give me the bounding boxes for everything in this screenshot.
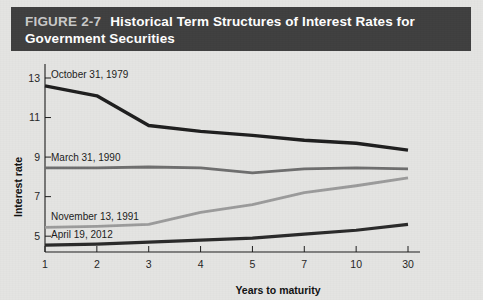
x-tick-label: 30 — [402, 258, 414, 270]
figure-title-text-1: Historical Term Structures of Interest R… — [110, 14, 415, 29]
y-tick-label: 5 — [34, 230, 40, 242]
x-axis-title: Years to maturity — [235, 284, 320, 296]
series-label-4: April 19, 2012 — [51, 229, 113, 240]
x-tick-label: 3 — [146, 258, 152, 270]
series-line-1 — [45, 86, 408, 150]
x-tick-label: 10 — [350, 258, 362, 270]
y-tick-label: 11 — [29, 111, 40, 123]
x-tick-label: 5 — [250, 258, 256, 270]
line-chart: 5791113 1234571030 Interest rate Years t… — [0, 52, 483, 300]
y-tick-label: 13 — [28, 72, 40, 84]
x-tick-label: 4 — [198, 258, 204, 270]
chart-figure: 5791113 1234571030 Interest rate Years t… — [0, 52, 483, 300]
figure-title-bar: FIGURE 2-7Historical Term Structures of … — [11, 7, 471, 51]
x-axis-ticks — [45, 246, 408, 252]
figure-title-line-2: Government Securities — [25, 30, 471, 47]
series-label-3: November 13, 1991 — [51, 211, 139, 222]
y-axis-tick-labels: 5791113 — [28, 72, 40, 242]
x-tick-label: 1 — [42, 258, 48, 270]
y-tick-label: 9 — [34, 151, 40, 163]
x-axis-tick-labels: 1234571030 — [42, 258, 414, 270]
series-label-2: March 31, 1990 — [51, 152, 121, 163]
x-tick-label: 7 — [301, 258, 307, 270]
figure-title-line-1: FIGURE 2-7Historical Term Structures of … — [25, 13, 471, 30]
figure-number: FIGURE 2-7 — [25, 14, 101, 29]
y-axis-title: Interest rate — [12, 157, 24, 217]
y-tick-label: 7 — [34, 190, 40, 202]
x-tick-label: 2 — [94, 258, 100, 270]
series-label-1: October 31, 1979 — [51, 69, 129, 80]
series-line-2 — [45, 167, 408, 173]
